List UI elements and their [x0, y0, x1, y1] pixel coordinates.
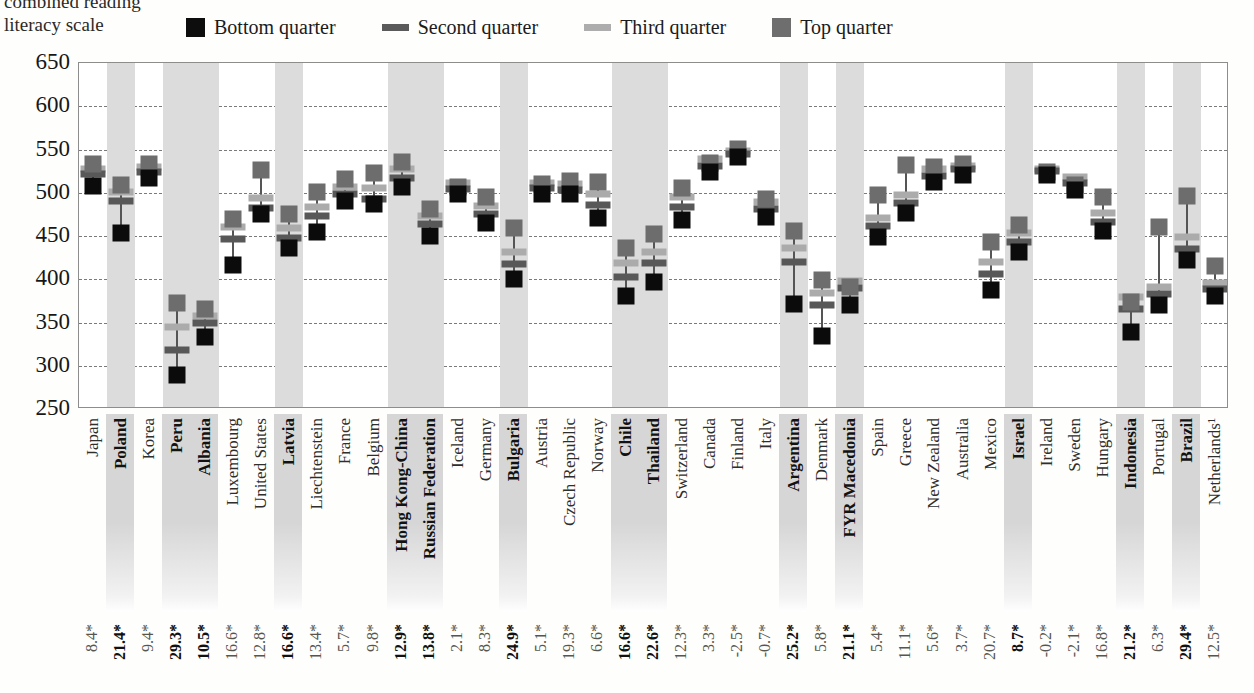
- score-difference-text: 16.6*: [616, 624, 634, 660]
- column-highlight-band: [612, 63, 640, 407]
- legend-swatch-light-gray-dash-icon: [584, 24, 611, 31]
- marker-top-quarter: [253, 162, 270, 179]
- x-axis-label-france: France: [330, 414, 358, 612]
- marker-bottom-quarter: [1038, 166, 1055, 183]
- score-difference-value: 16.6*: [611, 622, 639, 693]
- score-difference-text: -0.2*: [1037, 624, 1055, 657]
- score-difference-text: 5.4*: [868, 624, 886, 652]
- x-axis-label-new-zealand: New Zealand: [919, 414, 947, 612]
- score-difference-text: 19.3*: [560, 624, 578, 660]
- plot-column: [275, 63, 303, 407]
- marker-bottom-quarter: [533, 186, 550, 203]
- marker-third-quarter: [277, 225, 302, 232]
- x-axis-label-text: New Zealand: [925, 418, 942, 509]
- marker-top-quarter: [1122, 293, 1139, 310]
- marker-bottom-quarter: [926, 174, 943, 191]
- x-axis-label-text: Chile: [616, 418, 633, 457]
- x-axis-label-hungary: Hungary: [1088, 414, 1116, 612]
- marker-bottom-quarter: [393, 178, 410, 195]
- y-axis-tick-label: 500: [8, 179, 70, 205]
- score-difference-text: 22.6*: [644, 624, 662, 660]
- x-axis-label-text: Norway: [588, 418, 605, 473]
- marker-top-quarter: [309, 183, 326, 200]
- score-difference-text: 12.3*: [672, 624, 690, 660]
- plot-column: [808, 63, 836, 407]
- marker-top-quarter: [617, 240, 634, 257]
- legend-swatch-dark-gray-dash-icon: [382, 24, 409, 31]
- x-axis-label-denmark: Denmark: [807, 414, 835, 612]
- score-difference-text: 13.8*: [420, 624, 438, 660]
- score-difference-value: 21.2*: [1116, 622, 1144, 693]
- marker-top-quarter: [85, 156, 102, 173]
- score-difference-value: 3.3*: [695, 622, 723, 693]
- x-axis-label-text: Portugal: [1149, 418, 1166, 476]
- score-difference-text: 16.6*: [279, 624, 297, 660]
- marker-top-quarter: [898, 157, 915, 174]
- marker-bottom-quarter: [786, 296, 803, 313]
- y-axis-title-line1: combined reading: [4, 0, 174, 13]
- x-axis-label-greece: Greece: [891, 414, 919, 612]
- score-difference-text: 8.3*: [476, 624, 494, 652]
- marker-top-quarter: [842, 279, 859, 296]
- marker-second-quarter: [978, 271, 1003, 278]
- marker-top-quarter: [113, 176, 130, 193]
- score-difference-value: 6.3*: [1144, 622, 1172, 693]
- score-difference-value: 21.4*: [106, 622, 134, 693]
- x-axis-label-sweden: Sweden: [1060, 414, 1088, 612]
- score-difference-value: 25.2*: [779, 622, 807, 693]
- marker-bottom-quarter: [561, 186, 578, 203]
- plot-column: [388, 63, 416, 407]
- marker-bottom-quarter: [1178, 252, 1195, 269]
- column-highlight-band: [191, 63, 219, 407]
- plot-column: [1173, 63, 1201, 407]
- marker-top-quarter: [1094, 189, 1111, 206]
- score-difference-text: 6.6*: [588, 624, 606, 652]
- x-axis-label-text: Latvia: [280, 418, 297, 465]
- x-axis-label-text: Denmark: [813, 418, 830, 481]
- x-axis-label-czech-republic: Czech Republic: [555, 414, 583, 612]
- x-axis-label-norway: Norway: [583, 414, 611, 612]
- marker-bottom-quarter: [617, 287, 634, 304]
- plot-column: [724, 63, 752, 407]
- score-difference-value: 12.9*: [387, 622, 415, 693]
- y-axis-tick-label: 250: [8, 395, 70, 421]
- score-difference-value: 24.9*: [499, 622, 527, 693]
- x-axis-label-brazil: Brazil: [1172, 414, 1200, 612]
- score-difference-text: -2.5*: [728, 624, 746, 657]
- marker-third-quarter: [613, 259, 638, 266]
- marker-top-quarter: [982, 234, 999, 251]
- legend-label-bottom-quarter: Bottom quarter: [214, 16, 336, 39]
- plot-area: [78, 62, 1228, 408]
- x-axis-label-text: Brazil: [1177, 418, 1194, 462]
- y-axis-title-line2: literacy scale: [4, 13, 174, 36]
- x-axis-label-poland: Poland: [106, 414, 134, 612]
- score-difference-value: 16.8*: [1088, 622, 1116, 693]
- plot-column: [556, 63, 584, 407]
- plot-column: [359, 63, 387, 407]
- legend-item-second-quarter: Second quarter: [382, 16, 539, 39]
- x-axis-label-text: Thailand: [644, 418, 661, 484]
- score-difference-value: 19.3*: [555, 622, 583, 693]
- marker-third-quarter: [501, 249, 526, 256]
- marker-bottom-quarter: [954, 166, 971, 183]
- marker-top-quarter: [337, 170, 354, 187]
- score-difference-text: 29.3*: [167, 624, 185, 660]
- score-difference-text: 3.3*: [700, 624, 718, 652]
- marker-bottom-quarter: [1066, 182, 1083, 199]
- x-axis-label-text: Italy: [757, 418, 774, 449]
- column-highlight-band: [388, 63, 416, 407]
- x-axis-label-latvia: Latvia: [274, 414, 302, 612]
- x-axis-label-text: Korea: [140, 418, 157, 460]
- chart-legend: Bottom quarter Second quarter Third quar…: [186, 16, 893, 39]
- marker-top-quarter: [645, 226, 662, 243]
- score-difference-text: -0.7*: [756, 624, 774, 657]
- x-axis-label-text: Ireland: [1037, 418, 1054, 466]
- score-difference-text: 5.1*: [532, 624, 550, 652]
- plot-column: [472, 63, 500, 407]
- x-axis-label-text: Switzerland: [673, 418, 690, 499]
- marker-bottom-quarter: [814, 328, 831, 345]
- marker-top-quarter: [225, 210, 242, 227]
- marker-bottom-quarter: [225, 257, 242, 274]
- score-difference-text: 12.9*: [392, 624, 410, 660]
- marker-top-quarter: [365, 164, 382, 181]
